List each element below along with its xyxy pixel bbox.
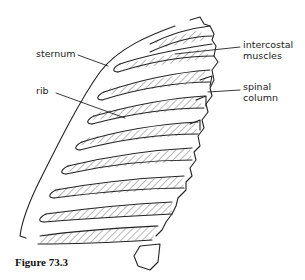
label-spinal-line1: spinal <box>243 81 278 92</box>
label-intercostal-line2: muscles <box>243 50 293 61</box>
label-rib: rib <box>36 85 49 96</box>
spinal-leader-line <box>208 90 240 92</box>
figure-caption: Figure 73.3 <box>15 256 68 268</box>
sternum-leader-line <box>78 55 108 66</box>
label-spinal-column: spinal column <box>243 81 278 103</box>
label-intercostal-muscles: intercostal muscles <box>243 39 293 61</box>
lumbar-vertebra <box>134 244 160 270</box>
label-spinal-line2: column <box>243 92 278 103</box>
label-intercostal-line1: intercostal <box>243 39 293 50</box>
label-sternum: sternum <box>36 48 76 59</box>
figure-73-3: sternum rib intercostal muscles spinal c… <box>0 0 305 280</box>
